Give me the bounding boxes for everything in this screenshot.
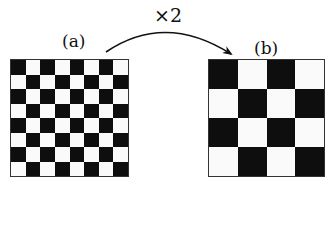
- board-square: [238, 89, 267, 118]
- board-square: [40, 133, 55, 148]
- board-square: [70, 133, 85, 148]
- board-square: [55, 89, 70, 104]
- board-square: [209, 89, 238, 118]
- board-square: [113, 75, 128, 90]
- board-square: [84, 118, 99, 133]
- board-square: [40, 104, 55, 119]
- board-square: [55, 133, 70, 148]
- board-square: [70, 162, 85, 177]
- board-square: [209, 118, 238, 147]
- board-square: [267, 89, 296, 118]
- board-square: [99, 89, 114, 104]
- board-square: [238, 147, 267, 176]
- board-square: [267, 60, 296, 89]
- board-square: [26, 75, 41, 90]
- board-square: [11, 162, 26, 177]
- board-square: [40, 60, 55, 75]
- board-square: [26, 89, 41, 104]
- board-square: [238, 60, 267, 89]
- board-square: [26, 162, 41, 177]
- board-square: [55, 147, 70, 162]
- board-square: [99, 147, 114, 162]
- board-square: [113, 147, 128, 162]
- board-square: [11, 89, 26, 104]
- board-square: [99, 162, 114, 177]
- board-square: [26, 104, 41, 119]
- board-square: [70, 147, 85, 162]
- board-square: [99, 60, 114, 75]
- board-square: [55, 75, 70, 90]
- board-square: [295, 147, 324, 176]
- board-square: [99, 118, 114, 133]
- board-square: [26, 147, 41, 162]
- board-square: [11, 60, 26, 75]
- board-square: [11, 118, 26, 133]
- board-square: [209, 60, 238, 89]
- board-square: [84, 147, 99, 162]
- board-square: [84, 133, 99, 148]
- board-square: [113, 133, 128, 148]
- board-square: [55, 104, 70, 119]
- board-square: [238, 118, 267, 147]
- board-square: [40, 162, 55, 177]
- board-square: [40, 118, 55, 133]
- board-square: [99, 104, 114, 119]
- board-square: [84, 162, 99, 177]
- board-square: [40, 89, 55, 104]
- board-square: [295, 60, 324, 89]
- board-square: [84, 104, 99, 119]
- board-square: [11, 133, 26, 148]
- board-square: [70, 89, 85, 104]
- board-square: [113, 104, 128, 119]
- board-square: [267, 147, 296, 176]
- board-square: [40, 147, 55, 162]
- board-square: [84, 75, 99, 90]
- checkerboard-4x4: [208, 59, 325, 177]
- board-square: [84, 89, 99, 104]
- board-square: [11, 104, 26, 119]
- board-square: [11, 75, 26, 90]
- board-square: [113, 118, 128, 133]
- board-square: [70, 118, 85, 133]
- checkerboard-8x8: [10, 59, 129, 177]
- board-square: [26, 133, 41, 148]
- board-square: [55, 162, 70, 177]
- board-square: [55, 118, 70, 133]
- board-square: [11, 147, 26, 162]
- board-square: [113, 60, 128, 75]
- board-square: [84, 60, 99, 75]
- board-square: [99, 133, 114, 148]
- board-square: [70, 60, 85, 75]
- board-square: [99, 75, 114, 90]
- board-square: [26, 118, 41, 133]
- board-square: [40, 75, 55, 90]
- board-square: [70, 104, 85, 119]
- board-square: [26, 60, 41, 75]
- board-square: [55, 60, 70, 75]
- board-square: [295, 118, 324, 147]
- board-square: [113, 162, 128, 177]
- board-square: [70, 75, 85, 90]
- board-square: [209, 147, 238, 176]
- board-square: [113, 89, 128, 104]
- board-square: [295, 89, 324, 118]
- board-square: [267, 118, 296, 147]
